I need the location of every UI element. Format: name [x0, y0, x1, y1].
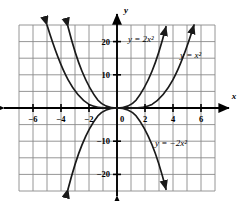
label-y-eq-2x2: y = 2x²	[127, 34, 154, 44]
parabola-graph-figure: −6 −4 −2 2 4 6 20 10 −10 −20 0 x y y = 2…	[0, 0, 245, 201]
figure-background	[0, 0, 245, 201]
x-tick-label-6: 6	[199, 114, 203, 124]
origin-label: 0	[120, 114, 124, 124]
x-tick-label--6: −6	[28, 114, 37, 124]
x-tick-label--4: −4	[56, 114, 66, 124]
x-tick-label--2: −2	[84, 114, 93, 124]
label-y-eq-x2: y = x²	[179, 50, 202, 60]
y-tick-label-10: 10	[102, 70, 111, 80]
y-tick-label--10: −10	[97, 136, 110, 146]
y-tick-label--20: −20	[97, 169, 110, 179]
x-axis-label: x	[231, 91, 237, 101]
x-tick-label-2: 2	[143, 114, 147, 124]
label-y-eq-neg2x2: y = −2x²	[154, 138, 187, 148]
y-tick-label-20: 20	[102, 37, 111, 47]
